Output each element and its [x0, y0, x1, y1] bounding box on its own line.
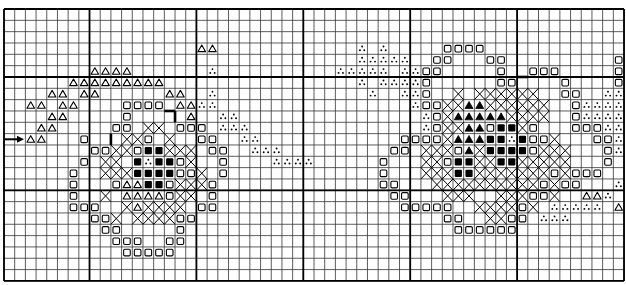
- three-dots-symbol: [620, 129, 622, 131]
- three-dots-symbol: [276, 159, 278, 161]
- three-dots-symbol: [244, 125, 246, 127]
- three-dots-symbol: [586, 113, 588, 115]
- open-square-symbol: [124, 125, 131, 132]
- three-dots-symbol: [402, 83, 404, 85]
- three-dots-symbol: [556, 208, 558, 210]
- open-square-symbol: [594, 125, 601, 132]
- open-square-symbol: [412, 204, 419, 211]
- open-square-symbol: [508, 215, 515, 222]
- filled-triangle-symbol: [465, 135, 473, 142]
- three-dots-symbol: [605, 129, 607, 131]
- three-dots-symbol: [233, 113, 235, 115]
- three-dots-symbol: [575, 204, 577, 206]
- open-square-symbol: [380, 159, 387, 166]
- three-dots-symbol: [252, 151, 254, 153]
- filled-square-symbol: [519, 147, 526, 154]
- three-dots-symbol: [233, 125, 235, 127]
- filled-square-symbol: [145, 147, 152, 154]
- three-dots-symbol: [383, 68, 385, 70]
- three-dots-symbol: [286, 159, 288, 161]
- three-dots-symbol: [556, 219, 558, 221]
- open-square-symbol: [134, 249, 141, 256]
- three-dots-symbol: [554, 204, 556, 206]
- three-dots-symbol: [618, 113, 620, 115]
- three-dots-symbol: [231, 129, 233, 131]
- open-square-symbol: [444, 45, 451, 52]
- three-dots-symbol: [391, 61, 393, 63]
- open-square-symbol: [145, 102, 152, 109]
- three-dots-symbol: [203, 106, 205, 108]
- open-square-symbol: [166, 181, 173, 188]
- open-square-symbol: [551, 68, 558, 75]
- open-square-symbol: [455, 45, 462, 52]
- three-dots-symbol: [562, 219, 564, 221]
- three-dots-symbol: [363, 49, 365, 51]
- three-dots-symbol: [545, 219, 547, 221]
- three-dots-symbol: [212, 102, 214, 104]
- filled-triangle-symbol: [465, 102, 473, 109]
- three-dots-symbol: [594, 106, 596, 108]
- three-dots-symbol: [415, 91, 417, 93]
- three-dots-symbol: [583, 106, 585, 108]
- open-square-symbol: [434, 204, 441, 211]
- open-square-symbol: [466, 45, 473, 52]
- three-dots-symbol: [415, 79, 417, 81]
- open-square-symbol: [530, 147, 537, 154]
- three-dots-symbol: [308, 159, 310, 161]
- open-square-symbol: [70, 170, 77, 177]
- open-square-symbol: [530, 193, 537, 200]
- three-dots-symbol: [618, 181, 620, 183]
- open-square-symbol: [113, 125, 120, 132]
- open-square-symbol: [498, 57, 505, 64]
- three-dots-symbol: [599, 106, 601, 108]
- three-dots-symbol: [342, 72, 344, 74]
- three-dots-symbol: [374, 95, 376, 97]
- three-dots-symbol: [273, 151, 275, 153]
- three-dots-symbol: [406, 72, 408, 74]
- three-dots-symbol: [235, 117, 237, 119]
- filled-square-symbol: [134, 170, 141, 177]
- three-dots-symbol: [609, 95, 611, 97]
- open-square-symbol: [551, 170, 558, 177]
- open-square-symbol: [166, 249, 173, 256]
- three-dots-symbol: [509, 140, 511, 142]
- three-dots-symbol: [599, 117, 601, 119]
- open-square-symbol: [583, 170, 590, 177]
- open-square-symbol: [177, 159, 184, 166]
- open-square-symbol: [81, 159, 88, 166]
- three-dots-symbol: [361, 57, 363, 59]
- open-square-symbol: [391, 193, 398, 200]
- open-square-symbol: [434, 125, 441, 132]
- open-square-symbol: [519, 204, 526, 211]
- three-dots-symbol: [150, 163, 152, 165]
- open-square-symbol: [594, 170, 601, 177]
- open-square-symbol: [498, 227, 505, 234]
- three-dots-symbol: [616, 129, 618, 131]
- three-dots-symbol: [586, 204, 588, 206]
- three-dots-symbol: [588, 106, 590, 108]
- three-dots-symbol: [383, 46, 385, 48]
- open-square-symbol: [423, 79, 430, 86]
- open-square-symbol: [209, 181, 216, 188]
- open-square-symbol: [423, 68, 430, 75]
- three-dots-symbol: [428, 117, 430, 119]
- three-dots-symbol: [145, 163, 147, 165]
- open-square-symbol: [498, 68, 505, 75]
- filled-square-symbol: [155, 147, 162, 154]
- three-dots-symbol: [380, 61, 382, 63]
- open-square-symbol: [423, 204, 430, 211]
- three-dots-symbol: [393, 79, 395, 81]
- open-square-symbol: [145, 249, 152, 256]
- filled-square-symbol: [166, 170, 173, 177]
- open-square-symbol: [434, 113, 441, 120]
- filled-square-symbol: [497, 136, 504, 143]
- three-dots-symbol: [594, 117, 596, 119]
- filled-triangle-symbol: [476, 124, 484, 131]
- open-triangle-symbol: [615, 204, 623, 211]
- three-dots-symbol: [199, 106, 201, 108]
- three-dots-symbol: [273, 163, 275, 165]
- three-dots-symbol: [297, 159, 299, 161]
- open-square-symbol: [508, 227, 515, 234]
- three-dots-symbol: [402, 95, 404, 97]
- open-square-symbol: [476, 45, 483, 52]
